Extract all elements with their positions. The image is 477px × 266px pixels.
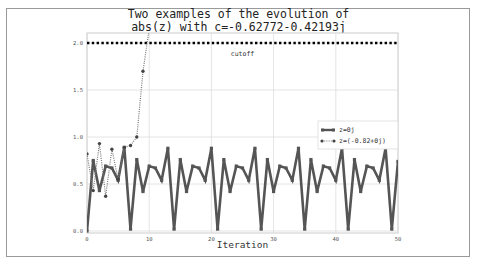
data-point [185,190,188,193]
data-point [278,165,281,168]
data-point [228,190,231,193]
legend-marker [321,129,324,132]
data-point [334,179,337,182]
y-tick-label: 0.0 [73,228,83,234]
data-point [154,166,157,169]
data-point [316,190,319,193]
line-chart: 010203040500.00.51.01.52.0cutoffz=0jz=(-… [0,0,477,266]
data-point [396,160,399,163]
data-point [222,158,225,161]
data-point [110,166,113,169]
legend-label: z=0j [339,126,355,134]
data-point [253,147,256,150]
data-point [135,158,138,161]
data-point [141,70,144,73]
data-point [141,190,144,193]
y-tick-label: 1.5 [73,87,83,93]
data-point [303,228,306,231]
x-axis-label: Iteration [87,239,398,250]
data-point [116,178,119,181]
data-point [92,159,95,162]
data-point [135,135,138,138]
data-point [191,165,194,168]
data-point [284,166,287,169]
data-point [160,179,163,182]
data-point [85,152,88,155]
legend-marker [332,139,335,142]
data-point [309,158,312,161]
data-point [216,228,219,231]
data-point [92,189,95,192]
data-point [241,166,244,169]
data-point [297,147,300,150]
data-point [210,147,213,150]
data-point [166,147,169,150]
data-point [272,190,275,193]
data-point [247,179,250,182]
data-point [98,142,101,145]
data-point [378,179,381,182]
data-point [291,179,294,182]
cutoff-annotation: cutoff [231,50,255,58]
data-point [322,165,325,168]
data-point [359,190,362,193]
data-point [129,228,132,231]
data-point [365,165,368,168]
data-point [129,144,132,147]
data-point [347,228,350,231]
data-point [104,165,107,168]
legend-marker [320,139,323,142]
y-tick-label: 1.0 [73,134,83,140]
legend-marker [332,129,335,132]
data-point [353,158,356,161]
data-point [266,158,269,161]
legend-label: z=(-0.82+0j) [339,137,386,145]
data-point [85,229,88,232]
data-point [179,158,182,161]
data-point [260,228,263,231]
data-point [390,228,393,231]
data-point [104,195,107,198]
data-point [235,165,238,168]
data-point [148,27,151,30]
data-point [197,166,200,169]
y-tick-label: 2.0 [73,40,83,46]
data-point [110,148,113,151]
y-tick-label: 0.5 [73,181,83,187]
data-point [328,166,331,169]
data-point [123,146,126,149]
data-point [148,165,151,168]
data-point [98,189,101,192]
data-point [204,179,207,182]
data-point [172,228,175,231]
data-point [372,166,375,169]
